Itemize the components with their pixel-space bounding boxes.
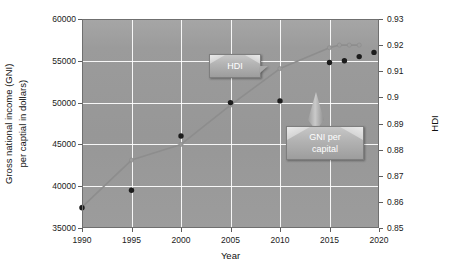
y2-tick-mark — [379, 71, 383, 72]
y2-tick-label-0.87: 0.87 — [387, 171, 404, 181]
y-tick-mark — [78, 103, 82, 104]
chart-root: HDI GNI per capital 35000400004500050000… — [0, 0, 450, 275]
y-axis-title-line1: Gross national income (GNI) — [2, 63, 16, 183]
y-tick-mark — [78, 61, 82, 62]
y-tick-label-50000: 50000 — [52, 98, 76, 108]
y2-tick-label-0.85: 0.85 — [387, 223, 404, 233]
y2-tick-label-0.93: 0.93 — [387, 14, 404, 24]
x-tick-mark — [181, 228, 182, 232]
y2-tick-mark — [379, 124, 383, 125]
x-tick-label-2000: 2000 — [172, 235, 191, 245]
banner-fold-left-icon — [210, 55, 225, 64]
y-tick-label-60000: 60000 — [52, 14, 76, 24]
y2-tick-mark — [379, 176, 383, 177]
y2-tick-mark — [379, 150, 383, 151]
y2-axis-title: HDI — [422, 19, 446, 228]
x-tick-label-2005: 2005 — [221, 235, 240, 245]
x-tick-mark — [231, 228, 232, 232]
x-tick-label-2020: 2020 — [370, 235, 389, 245]
y2-tick-label-0.86: 0.86 — [387, 197, 404, 207]
callout-hdi[interactable]: HDI — [209, 54, 261, 78]
y-tick-mark — [78, 144, 82, 145]
y2-tick-mark — [379, 19, 383, 20]
y-tick-label-55000: 55000 — [52, 56, 76, 66]
callout-gni-banner: GNI per capital — [286, 126, 364, 160]
callout-gni-label-line2: capital — [294, 143, 356, 155]
x-tick-mark — [82, 228, 83, 232]
x-tick-mark — [132, 228, 133, 232]
callout-hdi-pointer-icon — [260, 66, 268, 73]
x-tick-label-1990: 1990 — [73, 235, 92, 245]
callout-hdi-banner: HDI — [209, 54, 261, 78]
x-tick-mark — [379, 228, 380, 232]
y2-tick-label-0.89: 0.89 — [387, 119, 404, 129]
banner-fold-right-icon — [245, 55, 260, 64]
x-tick-label-1995: 1995 — [122, 235, 141, 245]
y-tick-mark — [78, 19, 82, 20]
y2-tick-label-0.91: 0.91 — [387, 66, 404, 76]
series-layer — [82, 19, 379, 228]
y-tick-label-45000: 45000 — [52, 139, 76, 149]
y-tick-mark — [78, 186, 82, 187]
callout-hdi-label: HDI — [227, 61, 243, 71]
y2-tick-mark — [379, 202, 383, 203]
y2-tick-label-0.9: 0.9 — [387, 92, 399, 102]
y2-tick-label-0.92: 0.92 — [387, 40, 404, 50]
y-tick-label-35000: 35000 — [52, 223, 76, 233]
y2-tick-label-0.88: 0.88 — [387, 145, 404, 155]
x-axis-title: Year — [82, 250, 379, 261]
callout-gni-label-line1: GNI per — [294, 131, 356, 143]
y-axis-title: Gross national income (GNI) per captial … — [2, 19, 30, 228]
callout-gni[interactable]: GNI per capital — [286, 126, 364, 160]
y2-tick-mark — [379, 97, 383, 98]
x-tick-label-2010: 2010 — [271, 235, 290, 245]
y2-axis-title-label: HDI — [429, 115, 440, 131]
y2-tick-mark — [379, 45, 383, 46]
y-tick-label-40000: 40000 — [52, 181, 76, 191]
x-tick-mark — [330, 228, 331, 232]
x-tick-label-2015: 2015 — [320, 235, 339, 245]
x-tick-mark — [280, 228, 281, 232]
y-axis-title-line2: per captial in dollars) — [16, 63, 30, 183]
